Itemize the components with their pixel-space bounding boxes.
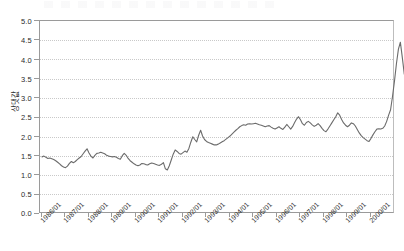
y-axis-tick-label: 0.5 (6, 190, 32, 199)
y-axis-tick-label: 4.5 (6, 36, 32, 45)
y-axis-tick-label: 0.0 (6, 209, 32, 218)
y-axis-tick-label: 1.5 (6, 152, 32, 161)
data-series-line (40, 21, 395, 214)
y-axis-tick-label: 5.0 (6, 17, 32, 26)
plot-area (39, 20, 394, 213)
y-axis-tick-label: 1.0 (6, 171, 32, 180)
y-axis-tick (34, 213, 39, 214)
y-axis-tick-label: 2.0 (6, 133, 32, 142)
scan-artifact (44, 1, 274, 8)
chart-container: 상댓값 5.0 4.5 4.0 3.5 3.0 2.5 2.0 1.5 1.0 … (0, 0, 404, 251)
y-axis-tick-label: 3.0 (6, 94, 32, 103)
y-axis-tick-label: 2.5 (6, 113, 32, 122)
y-axis-tick-label: 3.5 (6, 75, 32, 84)
y-axis-tick-label: 4.0 (6, 56, 32, 65)
